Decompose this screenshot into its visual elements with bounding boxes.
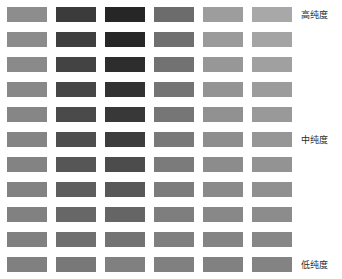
color-swatch (7, 107, 47, 122)
color-swatch (56, 107, 96, 122)
color-swatch (105, 157, 145, 172)
color-swatch (203, 7, 243, 22)
color-swatch (154, 157, 194, 172)
color-swatch (7, 32, 47, 47)
color-swatch (7, 157, 47, 172)
color-swatch (56, 157, 96, 172)
color-swatch (7, 7, 47, 22)
swatch-row (0, 232, 296, 247)
color-swatch (56, 82, 96, 97)
color-swatch (252, 32, 292, 47)
color-swatch (252, 132, 292, 147)
swatch-row (0, 132, 296, 147)
color-swatch (105, 207, 145, 222)
color-swatch (154, 182, 194, 197)
color-swatch (154, 7, 194, 22)
color-swatch (154, 107, 194, 122)
swatch-row (0, 57, 296, 72)
color-swatch (56, 7, 96, 22)
swatch-row (0, 7, 296, 22)
swatch-grid (0, 0, 296, 279)
color-swatch (252, 182, 292, 197)
purity-grid-chart: 高纯度 中纯度 低纯度 (0, 0, 342, 279)
color-swatch (252, 232, 292, 247)
color-swatch (105, 257, 145, 272)
color-swatch (203, 82, 243, 97)
color-swatch (252, 82, 292, 97)
label-medium-purity: 中纯度 (301, 135, 329, 145)
color-swatch (154, 57, 194, 72)
color-swatch (154, 32, 194, 47)
color-swatch (203, 257, 243, 272)
color-swatch (203, 182, 243, 197)
color-swatch (203, 157, 243, 172)
color-swatch (203, 107, 243, 122)
color-swatch (105, 132, 145, 147)
color-swatch (105, 82, 145, 97)
color-swatch (154, 232, 194, 247)
swatch-row (0, 82, 296, 97)
color-swatch (105, 57, 145, 72)
color-swatch (7, 232, 47, 247)
purity-label-column: 高纯度 中纯度 低纯度 (296, 0, 342, 279)
color-swatch (252, 207, 292, 222)
color-swatch (7, 182, 47, 197)
color-swatch (56, 207, 96, 222)
swatch-row (0, 207, 296, 222)
color-swatch (56, 182, 96, 197)
swatch-row (0, 157, 296, 172)
color-swatch (56, 57, 96, 72)
color-swatch (105, 232, 145, 247)
color-swatch (203, 232, 243, 247)
color-swatch (7, 57, 47, 72)
color-swatch (7, 257, 47, 272)
color-swatch (154, 207, 194, 222)
color-swatch (252, 7, 292, 22)
color-swatch (203, 132, 243, 147)
swatch-row (0, 32, 296, 47)
color-swatch (252, 57, 292, 72)
color-swatch (252, 107, 292, 122)
swatch-row (0, 107, 296, 122)
color-swatch (105, 107, 145, 122)
color-swatch (56, 132, 96, 147)
color-swatch (154, 132, 194, 147)
color-swatch (56, 232, 96, 247)
color-swatch (203, 207, 243, 222)
color-swatch (105, 7, 145, 22)
color-swatch (203, 57, 243, 72)
color-swatch (7, 207, 47, 222)
swatch-row (0, 257, 296, 272)
label-high-purity: 高纯度 (301, 10, 329, 20)
color-swatch (252, 257, 292, 272)
swatch-row (0, 182, 296, 197)
color-swatch (7, 82, 47, 97)
color-swatch (105, 182, 145, 197)
color-swatch (154, 257, 194, 272)
color-swatch (56, 257, 96, 272)
color-swatch (7, 132, 47, 147)
color-swatch (154, 82, 194, 97)
color-swatch (203, 32, 243, 47)
color-swatch (105, 32, 145, 47)
color-swatch (252, 157, 292, 172)
label-low-purity: 低纯度 (301, 260, 329, 270)
color-swatch (56, 32, 96, 47)
